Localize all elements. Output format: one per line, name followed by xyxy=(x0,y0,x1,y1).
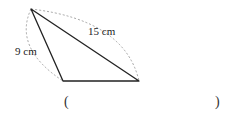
label-left-side: 9 cm xyxy=(15,45,37,57)
answer-close-paren: ) xyxy=(215,94,220,110)
answer-open-paren: ( xyxy=(64,94,69,110)
answer-blank[interactable] xyxy=(74,96,214,112)
label-hypotenuse: 15 cm xyxy=(88,25,116,37)
triangle xyxy=(31,9,139,81)
